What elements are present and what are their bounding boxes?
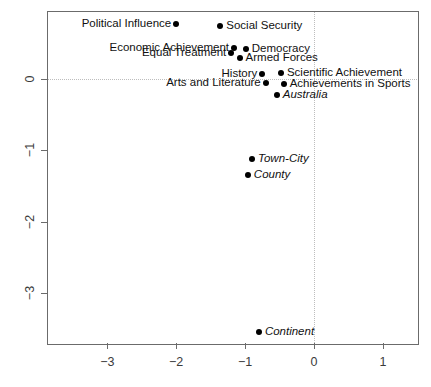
x-tick-label: −3 [100, 355, 114, 369]
x-tick-label: −2 [169, 355, 183, 369]
scatter-plot-canvas: −3−2−101 0−1−2−3 Political InfluenceSoci… [0, 0, 431, 387]
x-tick-label: 1 [379, 355, 386, 369]
y-tick-label: −1 [23, 143, 37, 157]
y-tick-label: −2 [23, 214, 37, 228]
x-tick-label: −1 [238, 355, 252, 369]
x-tick-label: 0 [311, 355, 318, 369]
y-tick-label: −3 [23, 286, 37, 300]
y-tick-label: 0 [23, 76, 37, 83]
plot-frame [47, 11, 419, 345]
